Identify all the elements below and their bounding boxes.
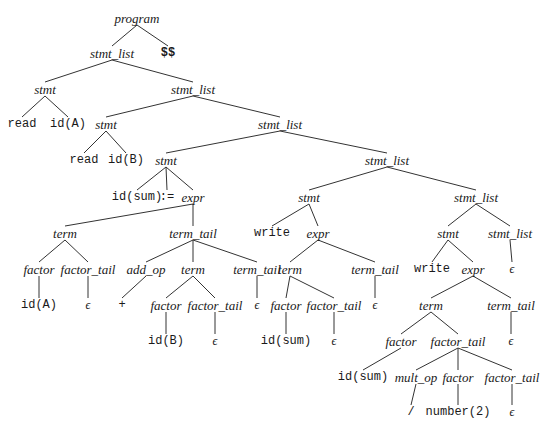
tree-node-: / xyxy=(407,406,414,418)
tree-edge xyxy=(401,312,431,334)
tree-edge xyxy=(45,96,68,117)
tree-node-factor_tail: factor_tail xyxy=(431,335,486,348)
tree-node-: ϵ xyxy=(213,335,218,347)
tree-node-term: term xyxy=(53,227,77,240)
tree-node-factor: factor xyxy=(385,335,416,348)
tree-node-term: term xyxy=(278,263,302,276)
tree-edge xyxy=(137,25,168,46)
tree-edge xyxy=(411,384,416,405)
tree-node-id-sum: id(sum) xyxy=(261,335,311,347)
tree-edge xyxy=(146,240,193,262)
tree-edge xyxy=(448,204,476,226)
tree-node-program: program xyxy=(114,12,159,25)
tree-edge xyxy=(431,276,473,298)
tree-edge xyxy=(166,167,193,190)
tree-node-term: term xyxy=(181,263,205,276)
tree-edge xyxy=(448,240,473,262)
tree-edge xyxy=(193,96,280,117)
tree-node-id-B: id(B) xyxy=(148,335,184,347)
parse-tree-diagram: programstmt_list$$stmtstmt_listreadid(A)… xyxy=(0,0,548,429)
tree-node-factor: factor xyxy=(270,299,301,312)
tree-edge xyxy=(193,240,257,262)
tree-edge xyxy=(431,312,458,334)
tree-edge xyxy=(166,167,167,190)
tree-node-term_tail: term_tail xyxy=(233,263,281,276)
tree-edge xyxy=(318,240,375,262)
tree-node-write: write xyxy=(254,227,290,239)
tree-edge xyxy=(65,240,88,262)
tree-node-read: read xyxy=(70,154,99,166)
tree-edge xyxy=(473,276,511,298)
tree-node-id-A: id(A) xyxy=(50,118,86,130)
tree-node-term_tail: term_tail xyxy=(169,227,217,240)
tree-node-: ϵ xyxy=(332,335,337,347)
tree-node-stmt_list: stmt_list xyxy=(90,47,134,60)
tree-edge xyxy=(122,276,146,298)
tree-node-: := xyxy=(160,191,174,203)
tree-node-expr: expr xyxy=(306,227,329,240)
tree-node-factor: factor xyxy=(23,263,54,276)
tree-node-stmt_list: stmt_list xyxy=(171,83,215,96)
tree-node-number-2: number(2) xyxy=(426,406,491,418)
tree-edge xyxy=(416,348,458,370)
tree-edge xyxy=(272,204,309,226)
tree-node-: ϵ xyxy=(86,299,91,311)
tree-node-: ϵ xyxy=(510,406,515,418)
tree-edge xyxy=(166,276,193,298)
tree-edge xyxy=(458,348,512,370)
tree-edge xyxy=(432,240,448,262)
tree-node-write: write xyxy=(414,263,450,275)
tree-node-id-A: id(A) xyxy=(21,299,57,311)
tree-node-read: read xyxy=(8,118,37,130)
tree-node-add_op: add_op xyxy=(127,263,166,276)
tree-edge xyxy=(84,131,106,153)
tree-node-stmt: stmt xyxy=(437,227,459,240)
tree-edge xyxy=(290,240,318,262)
tree-edge xyxy=(106,96,193,117)
tree-node-factor_tail: factor_tail xyxy=(307,299,362,312)
tree-node-stmt_list: stmt_list xyxy=(365,154,409,167)
tree-edge xyxy=(193,276,215,298)
tree-node-factor: factor xyxy=(150,299,181,312)
tree-node-term: term xyxy=(419,299,443,312)
tree-edges xyxy=(0,0,548,429)
tree-edge xyxy=(112,25,137,46)
tree-edge xyxy=(510,240,512,262)
tree-edge xyxy=(65,204,193,226)
tree-node-: ϵ xyxy=(509,335,514,347)
tree-node-id-sum: id(sum) xyxy=(338,371,388,383)
tree-node-stmt: stmt xyxy=(298,191,320,204)
tree-edge xyxy=(309,204,318,226)
tree-node-factor_tail: factor_tail xyxy=(188,299,243,312)
tree-node-stmt: stmt xyxy=(95,118,117,131)
tree-edge xyxy=(112,60,193,82)
tree-node-: ϵ xyxy=(510,263,515,275)
tree-edge xyxy=(476,204,510,226)
tree-node-factor_tail: factor_tail xyxy=(61,263,116,276)
tree-edge xyxy=(286,276,290,298)
tree-node-: ϵ xyxy=(255,299,260,311)
tree-edge xyxy=(106,131,126,153)
tree-node-stmt_list: stmt_list xyxy=(488,227,532,240)
tree-edge xyxy=(166,131,280,153)
tree-node-: ϵ xyxy=(373,299,378,311)
tree-edge xyxy=(39,240,65,262)
tree-edge xyxy=(290,276,334,298)
tree-node-: + xyxy=(118,299,125,311)
tree-node-id-sum: id(sum) xyxy=(112,191,162,203)
tree-node-stmt: stmt xyxy=(155,154,177,167)
tree-edge xyxy=(309,167,387,190)
tree-edge xyxy=(280,131,387,153)
tree-node-stmt_list: stmt_list xyxy=(258,118,302,131)
tree-node-stmt: stmt xyxy=(34,83,56,96)
tree-node-stmt_list: stmt_list xyxy=(454,191,498,204)
tree-edge xyxy=(387,167,476,190)
tree-node-id-B: id(B) xyxy=(108,154,144,166)
tree-edge xyxy=(363,348,401,370)
tree-edge xyxy=(22,96,45,117)
tree-node-factor_tail: factor_tail xyxy=(485,371,540,384)
tree-node-term_tail: term_tail xyxy=(351,263,399,276)
tree-node-mult_op: mult_op xyxy=(395,371,438,384)
tree-edge xyxy=(45,60,112,82)
tree-node-term_tail: term_tail xyxy=(487,299,535,312)
